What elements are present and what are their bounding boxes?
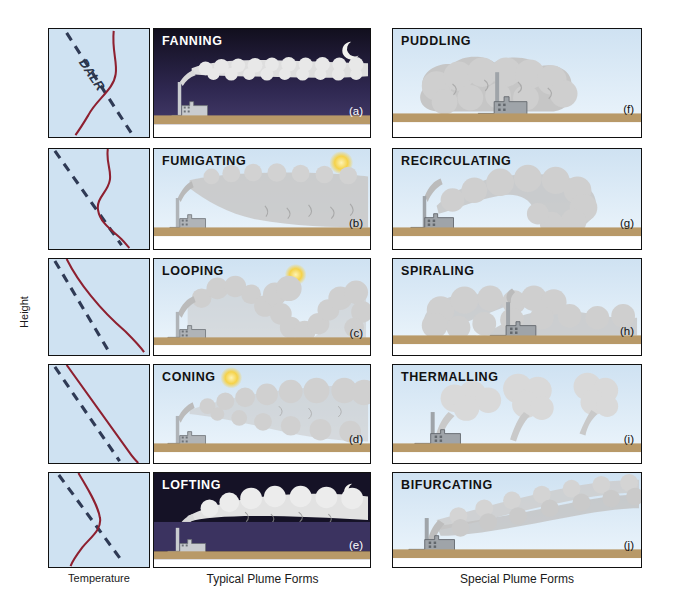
caption-typical-plume-forms: Typical Plume Forms xyxy=(155,572,370,586)
ground-strip xyxy=(154,337,370,345)
ground-strip xyxy=(393,443,641,452)
scene-panel-recirculating: RECIRCULATING (g) xyxy=(392,148,642,250)
profile-panel-coning xyxy=(48,364,150,464)
panel-letter-j: (j) xyxy=(624,539,634,551)
scene-panel-lofting: LOFTING (e) xyxy=(153,472,371,568)
ground-strip xyxy=(154,115,370,124)
scene-panel-fumigating: FUMIGATING (b) xyxy=(153,148,371,250)
scene-title-bifurcating: BIFURCATING xyxy=(401,478,493,492)
scene-title-thermalling: THERMALLING xyxy=(401,370,499,384)
ground-strip xyxy=(393,227,641,236)
panel-letter-f: (f) xyxy=(623,103,634,115)
ground-strip xyxy=(393,335,641,344)
scene-panel-coning: CONING (d) xyxy=(153,364,371,464)
scene-title-coning: CONING xyxy=(162,370,216,384)
panel-letter-a: (a) xyxy=(349,105,363,117)
scene-panel-spiraling: SPIRALING (h) xyxy=(392,258,642,356)
caption-special-plume-forms: Special Plume Forms xyxy=(392,572,642,586)
ground-strip xyxy=(393,113,641,122)
scene-panel-fanning: FANNING (a) xyxy=(153,28,371,138)
scene-title-lofting: LOFTING xyxy=(162,478,221,492)
profile-panel-lofting xyxy=(48,472,150,568)
ground-strip xyxy=(154,443,370,452)
x-axis-label: Temperature xyxy=(44,572,154,584)
ground-strip xyxy=(154,551,370,559)
profile-panel-looping xyxy=(48,258,150,356)
plume-forms-figure: Height Temperature Typical Plume Forms S… xyxy=(0,0,675,609)
ground-strip xyxy=(154,227,370,236)
profile-panel-fumigating xyxy=(48,148,150,250)
scene-panel-looping: LOOPING (c) xyxy=(153,258,371,356)
panel-letter-i: (i) xyxy=(624,433,634,445)
panel-letter-h: (h) xyxy=(620,325,634,337)
scene-panel-thermalling: THERMALLING (i) xyxy=(392,364,642,464)
panel-letter-e: (e) xyxy=(349,539,363,551)
panel-letter-c: (c) xyxy=(350,327,363,339)
scene-title-puddling: PUDDLING xyxy=(401,34,471,48)
scene-title-fumigating: FUMIGATING xyxy=(162,154,246,168)
y-axis-label-text: Height xyxy=(18,296,30,328)
panel-letter-b: (b) xyxy=(349,217,363,229)
scene-title-fanning: FANNING xyxy=(162,34,222,48)
ground-strip xyxy=(393,549,641,558)
scene-title-spiraling: SPIRALING xyxy=(401,264,474,278)
panel-letter-d: (d) xyxy=(349,433,363,445)
scene-panel-bifurcating: BIFURCATING (j) xyxy=(392,472,642,568)
y-axis-label: Height xyxy=(14,262,34,362)
sun-icon xyxy=(220,367,242,389)
panel-letter-g: (g) xyxy=(620,217,634,229)
scene-title-looping: LOOPING xyxy=(162,264,224,278)
scene-panel-puddling: PUDDLING (f) xyxy=(392,28,642,138)
profile-panel-fanning: DALR xyxy=(48,28,150,138)
scene-title-recirculating: RECIRCULATING xyxy=(401,154,511,168)
